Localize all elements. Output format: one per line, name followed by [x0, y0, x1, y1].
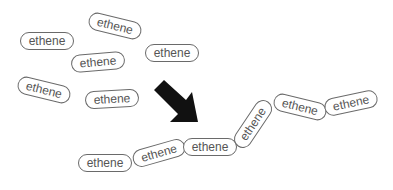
- reaction-arrow-icon: [150, 78, 210, 128]
- monomer-ethene: ethene: [70, 51, 125, 74]
- monomer-ethene: ethene: [16, 75, 73, 106]
- polymer-unit-ethene: ethene: [230, 97, 275, 152]
- polymer-unit-ethene: ethene: [323, 89, 380, 118]
- monomer-ethene: ethene: [20, 32, 74, 50]
- monomer-ethene: ethene: [145, 44, 199, 62]
- polymer-unit-ethene: ethene: [131, 137, 188, 169]
- monomer-ethene: ethene: [87, 11, 144, 42]
- polymer-unit-ethene: ethene: [183, 138, 237, 156]
- monomer-ethene: ethene: [85, 89, 140, 110]
- polymer-unit-ethene: ethene: [272, 92, 329, 123]
- polymer-unit-ethene: ethene: [78, 154, 132, 172]
